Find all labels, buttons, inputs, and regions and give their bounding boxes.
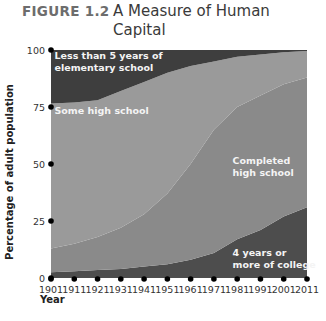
y-tick-label: 25 — [33, 216, 45, 227]
x-tick-dot — [71, 276, 77, 282]
x-tick-label: 1931 — [109, 284, 133, 295]
x-tick-dot — [165, 276, 171, 282]
x-tick-label: 1911 — [62, 284, 86, 295]
y-tick-label: 75 — [33, 102, 45, 113]
y-tick-dot — [48, 161, 54, 167]
x-tick-dot — [211, 276, 217, 282]
x-tick-dot — [118, 276, 124, 282]
x-tick-label: 2001 — [272, 284, 296, 295]
y-axis-title: Percentage of adult population — [4, 84, 15, 260]
y-tick-label: 0 — [39, 273, 45, 284]
x-tick-dot — [258, 276, 264, 282]
x-tick-label: 1941 — [132, 284, 156, 295]
x-tick-dot — [188, 276, 194, 282]
x-tick-label: 1971 — [202, 284, 226, 295]
x-axis-title: Year — [39, 294, 65, 305]
y-tick-dot — [48, 47, 54, 53]
x-tick-label: 1991 — [248, 284, 272, 295]
y-tick-dot — [48, 218, 54, 224]
y-tick-label: 100 — [27, 45, 45, 56]
band-label-less-than-5-years-of-elementary-school: Less than 5 years ofelementary school — [54, 50, 163, 73]
band-label-some-high-school: Some high school — [54, 105, 148, 116]
x-tick-dot — [304, 276, 310, 282]
y-tick-dot — [48, 104, 54, 110]
x-tick-label: 1921 — [85, 284, 109, 295]
x-tick-dot — [281, 276, 287, 282]
x-tick-dot — [141, 276, 147, 282]
y-axis: 0255075100 — [27, 45, 54, 284]
area-chart: 4 years ormore of collegeCompletedhigh s… — [0, 0, 326, 321]
band-label-completed-high-school: Completedhigh school — [233, 155, 294, 178]
x-tick-dot — [95, 276, 101, 282]
x-tick-dot — [48, 276, 54, 282]
x-axis: 1901191119211931194119511961197119811991… — [39, 276, 319, 295]
y-tick-label: 50 — [33, 159, 45, 170]
x-tick-label: 2011 — [295, 284, 319, 295]
x-tick-label: 1951 — [155, 284, 179, 295]
x-tick-label: 1981 — [225, 284, 249, 295]
x-tick-label: 1961 — [179, 284, 203, 295]
x-tick-dot — [234, 276, 240, 282]
